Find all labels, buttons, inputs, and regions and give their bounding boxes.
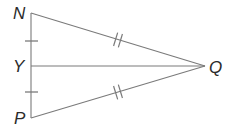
vertex-label-Q: Q	[209, 58, 222, 77]
vertex-label-P: P	[14, 109, 26, 128]
diagram-canvas: N Y P Q	[0, 0, 231, 132]
vertex-label-N: N	[13, 4, 26, 23]
vertex-label-Y: Y	[13, 57, 26, 76]
segment-PQ	[31, 66, 205, 118]
geometry-figure: N Y P Q	[0, 0, 231, 132]
segment-group	[31, 13, 205, 118]
segment-NQ	[31, 13, 205, 66]
